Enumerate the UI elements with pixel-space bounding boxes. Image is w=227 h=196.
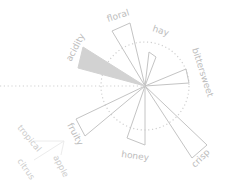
- label-floral: floral: [106, 7, 131, 24]
- sublabel-tropical: tropical: [15, 123, 43, 154]
- wedge-hay[interactable]: [145, 52, 156, 86]
- wedge-fruity[interactable]: [76, 86, 145, 136]
- label-fruity: fruity: [65, 121, 85, 147]
- sub-category-labels: tropicalcitrusapple: [15, 123, 71, 182]
- flavor-radial-chart: floralhaybittersweetcrisphoneyfruityacid…: [0, 0, 227, 196]
- wedge-acidity[interactable]: [78, 47, 145, 86]
- wedges: [76, 23, 207, 158]
- wedge-honey[interactable]: [127, 86, 145, 145]
- sublabel-apple: apple: [51, 153, 71, 179]
- sublabel-citrus: citrus: [15, 156, 37, 182]
- label-crisp: crisp: [189, 147, 212, 170]
- label-hay: hay: [151, 23, 170, 38]
- wedge-bittersweet[interactable]: [145, 69, 189, 86]
- label-honey: honey: [121, 149, 151, 163]
- label-bittersweet: bittersweet: [190, 47, 215, 99]
- wedge-crisp[interactable]: [145, 86, 207, 158]
